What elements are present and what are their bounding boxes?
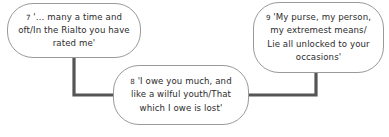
- node-8-quote: 'I owe you much, and like a wilful youth…: [131, 76, 232, 112]
- connector-node9-to-node8: [248, 72, 316, 95]
- diagram-node-9[interactable]: 9 'My purse, my person, my extremest mea…: [253, 2, 384, 73]
- node-8-text: 8 'I owe you much, and like a wilful you…: [114, 75, 248, 115]
- node-9-number: 9: [266, 13, 271, 22]
- node-7-quote: '… many a time and oft/In the Rialto you…: [18, 12, 130, 48]
- node-9-text: 9 'My purse, my person, my extremest mea…: [254, 11, 383, 64]
- node-8-number: 8: [130, 77, 135, 86]
- node-9-quote: 'My purse, my person, my extremest means…: [267, 12, 371, 62]
- connector-node7-to-node8: [74, 57, 114, 95]
- flow-diagram: 7 '… many a time and oft/In the Rialto y…: [0, 0, 389, 137]
- node-7-text: 7 '… many a time and oft/In the Rialto y…: [8, 11, 140, 51]
- node-7-number: 7: [26, 13, 31, 22]
- diagram-node-8[interactable]: 8 'I owe you much, and like a wilful you…: [113, 65, 249, 125]
- diagram-node-7[interactable]: 7 '… many a time and oft/In the Rialto y…: [7, 3, 141, 58]
